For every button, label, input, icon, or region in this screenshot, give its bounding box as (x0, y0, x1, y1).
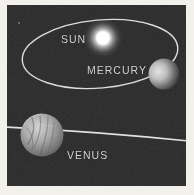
venus-label: VENUS (67, 149, 108, 161)
orbital-diagram-figure: SUN MERCURY VENUS (0, 0, 194, 195)
sun-label: SUN (61, 33, 86, 45)
diagram-panel: SUN MERCURY VENUS (7, 5, 186, 186)
mercury-label: MERCURY (87, 64, 147, 76)
